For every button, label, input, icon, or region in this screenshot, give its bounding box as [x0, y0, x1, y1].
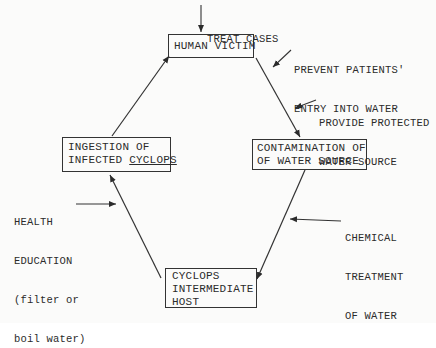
label-treat-cases-line1: TREAT CASES: [207, 33, 279, 46]
arrow-cyclops-to-ingestion: [110, 175, 161, 278]
label-health-education: HEALTH EDUCATION (filter or boil water): [14, 190, 86, 348]
label-health-education-line1: HEALTH: [14, 216, 86, 229]
label-protected-source-line2: WATER SOURCE: [319, 156, 430, 169]
arrow-contamination-to-cyclops: [257, 170, 305, 279]
arrow-ingestion-to-victim: [112, 56, 169, 136]
label-treat-cases: TREAT CASES: [207, 7, 279, 72]
node-ingestion-line2: INFECTED CYCLOPS: [68, 154, 170, 167]
label-protected-source-line1: PROVIDE PROTECTED: [319, 117, 430, 130]
label-prevent-entry-line1: PREVENT PATIENTS': [294, 64, 405, 77]
label-protected-source: PROVIDE PROTECTED WATER SOURCE: [319, 91, 430, 195]
label-health-education-line4: boil water): [14, 333, 86, 346]
label-health-education-line3: (filter or: [14, 294, 86, 307]
label-chemical-treatment-line1: CHEMICAL: [345, 232, 404, 245]
node-cyclops-host-line2: INTERMEDIATE: [172, 283, 256, 296]
node-ingestion-line1: INGESTION OF: [68, 141, 170, 154]
node-cyclops-host: CYCLOPS INTERMEDIATE HOST: [165, 268, 257, 308]
label-chemical-treatment-line3: OF WATER: [345, 310, 404, 323]
node-cyclops-host-line1: CYCLOPS: [172, 270, 256, 283]
node-ingestion: INGESTION OF INFECTED CYCLOPS: [62, 137, 171, 172]
label-chemical-treatment-line2: TREATMENT: [345, 271, 404, 284]
arrow-chemical-treatment: [290, 219, 341, 221]
node-cyclops-host-line3: HOST: [172, 296, 256, 309]
label-health-education-line2: EDUCATION: [14, 255, 86, 268]
node-ingestion-line2-prefix: INFECTED: [68, 154, 129, 166]
label-chemical-treatment: CHEMICAL TREATMENT OF WATER: [345, 206, 404, 348]
node-ingestion-cyclops-underlined: CYCLOPS: [129, 154, 177, 166]
